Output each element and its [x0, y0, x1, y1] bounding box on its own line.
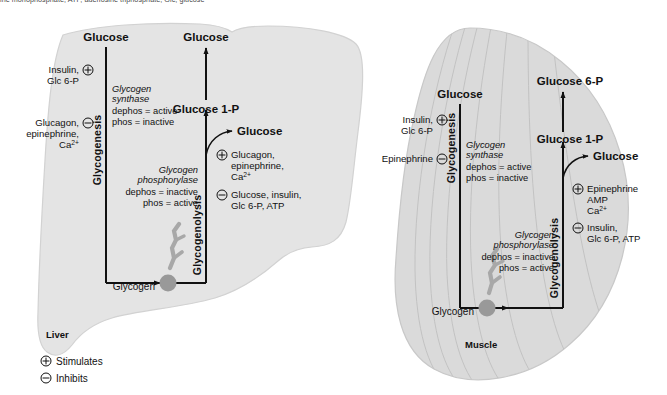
liver-glycogenolysis-stim-line1: Glucagon, — [231, 149, 275, 160]
muscle-glycogenesis-stim-line1: Insulin, — [403, 114, 433, 125]
liver-glycogenolysis-stim-line2: epinephrine, — [231, 160, 284, 171]
muscle-synthase-name-1: Glycogen — [466, 140, 505, 150]
legend: Stimulates Inhibits — [41, 356, 103, 384]
muscle-glycogenesis-stim-line2: Glc 6-P — [401, 125, 433, 136]
liver-phosphorylase-name-1: Glycogen — [159, 165, 198, 175]
muscle-glycogenolysis-inh-line2: Glc 6-P, ATP — [587, 233, 641, 244]
liver-phosphorylase-state-1: dephos = inactive — [125, 187, 198, 197]
legend-inhibits-label: Inhibits — [56, 373, 88, 384]
muscle-glycogenesis-label: Glycogenesis — [445, 113, 457, 184]
muscle-synthase-state-2: phos = inactive — [466, 173, 528, 183]
legend-stimulates-label: Stimulates — [56, 356, 103, 367]
muscle-glycogenolysis-stim-line2: AMP — [587, 194, 608, 205]
liver-glycogenesis-substrate: Glucose — [83, 31, 128, 43]
muscle-glycogen-label: Glycogen — [432, 306, 474, 317]
liver-glycogenesis-inh-line1: Glucagon, — [35, 117, 79, 128]
liver-glucose-1-p: Glucose 1-P — [173, 103, 240, 115]
liver-synthase-name-2: synthase — [112, 94, 149, 104]
liver-glycogen-label: Glycogen — [113, 281, 155, 292]
liver-synthase-state-2: phos = inactive — [112, 117, 174, 127]
muscle-free-glucose: Glucose — [593, 150, 638, 162]
glycogen-metabolism-figure: Glycogenesis Glycogenolysis Glucose Gluc… — [0, 0, 667, 395]
muscle-glycogenolysis-inh-line1: Insulin, — [587, 222, 617, 233]
muscle-phosphorylase-name-1: Glycogen — [515, 230, 554, 240]
muscle-glycogenesis-substrate: Glucose — [437, 88, 482, 100]
muscle-glycogenesis-inh-line1: Epinephrine — [382, 153, 433, 164]
liver-glycogenesis-stim-line2: Glc 6-P — [47, 75, 79, 86]
liver-glycogenolysis-inh-line2: Glc 6-P, ATP — [231, 200, 285, 211]
muscle-phosphorylase-state-1: dephos = inactive — [481, 252, 554, 262]
muscle-phosphorylase-state-2: phos = active — [499, 263, 554, 273]
muscle-synthase-name-2: synthase — [466, 150, 503, 160]
muscle-glycogenolysis-stim-line1: Epinephrine — [587, 183, 638, 194]
liver-phosphorylase-state-2: phos = active — [143, 198, 198, 208]
muscle-organ-label: Muscle — [465, 339, 497, 350]
liver-free-glucose: Glucose — [237, 125, 282, 137]
liver-glycogenesis-stim-line1: Insulin, — [49, 64, 79, 75]
liver-synthase-state-1: dephos = active — [112, 106, 177, 116]
liver-synthase-name-1: Glycogen — [112, 84, 151, 94]
muscle-glucose-1-p: Glucose 1-P — [537, 133, 604, 145]
muscle-synthase-state-1: dephos = active — [466, 162, 531, 172]
liver-phosphorylase-name-2: phosphorylase — [137, 175, 198, 185]
liver-glycogenolysis-inh-line1: Glucose, insulin, — [231, 189, 301, 200]
liver-glycogenesis-inh-line2: epinephrine, — [26, 128, 79, 139]
legend-inhibits-item: Inhibits — [41, 373, 88, 384]
liver-glycogenolysis-product: Glucose — [183, 31, 228, 43]
liver-organ-shape — [38, 23, 363, 355]
muscle-glycogenolysis-product: Glucose 6-P — [537, 75, 604, 87]
legend-stimulates-item: Stimulates — [41, 356, 103, 367]
muscle-phosphorylase-name-2: phosphorylase — [493, 240, 554, 250]
liver-organ-label: Liver — [46, 329, 69, 340]
